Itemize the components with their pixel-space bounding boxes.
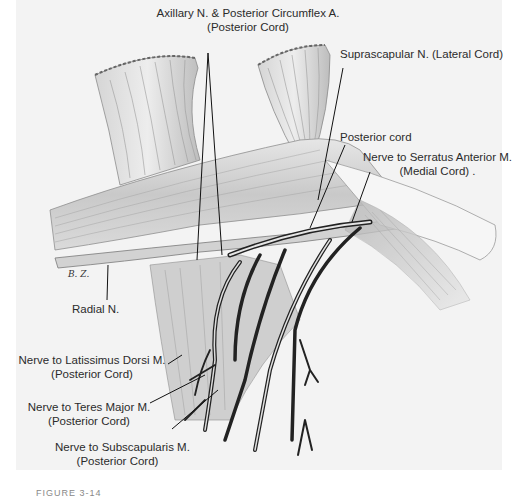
- label-posterior-cord: Posterior cord: [340, 130, 412, 144]
- figure-caption: FIGURE 3-14: [36, 488, 102, 498]
- label-axillary-nerve: Axillary N. & Posterior Circumflex A. (P…: [128, 6, 368, 34]
- reflected-pectoralis-major: [95, 56, 200, 185]
- label-subscapularis-line2: (Posterior Cord): [55, 454, 180, 468]
- label-serratus-line2: (Medial Cord) .: [355, 164, 516, 178]
- posterior-wall-muscles: [150, 255, 300, 420]
- label-subscapularis-nerve: Nerve to Subscapularis M. (Posterior Cor…: [55, 440, 180, 468]
- label-teres-major-nerve: Nerve to Teres Major M. (Posterior Cord): [24, 400, 154, 428]
- label-teres-line2: (Posterior Cord): [24, 414, 154, 428]
- label-subscapularis-line1: Nerve to Subscapularis M.: [55, 440, 180, 454]
- label-radial-line1: Radial N.: [72, 302, 119, 316]
- label-serratus-line1: Nerve to Serratus Anterior M.: [355, 150, 516, 164]
- label-latissimus-nerve: Nerve to Latissimus Dorsi M. (Posterior …: [12, 353, 172, 381]
- arm-muscle-band: [50, 139, 402, 268]
- label-serratus-nerve: Nerve to Serratus Anterior M. (Medial Co…: [355, 150, 516, 178]
- label-suprascapular-line1: Suprascapular N. (Lateral Cord): [340, 47, 503, 61]
- label-radial-nerve: Radial N.: [72, 302, 119, 316]
- label-axillary-line1: Axillary N. & Posterior Circumflex A.: [128, 6, 368, 20]
- label-posterior-cord-line1: Posterior cord: [340, 130, 412, 144]
- label-suprascapular-nerve: Suprascapular N. (Lateral Cord): [340, 47, 503, 61]
- label-teres-line1: Nerve to Teres Major M.: [24, 400, 154, 414]
- label-axillary-line2: (Posterior Cord): [128, 20, 368, 34]
- label-latissimus-line1: Nerve to Latissimus Dorsi M.: [12, 353, 172, 367]
- artist-signature: B. Z.: [67, 269, 89, 279]
- label-latissimus-line2: (Posterior Cord): [12, 367, 172, 381]
